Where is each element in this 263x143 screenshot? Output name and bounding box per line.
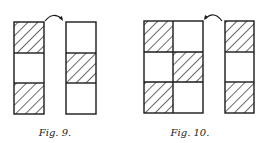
fig10-grid bbox=[144, 21, 203, 113]
fig10-caption: Fig. 10. bbox=[171, 127, 210, 138]
fig9-left-column bbox=[14, 22, 44, 114]
fig9-right-column bbox=[66, 22, 96, 114]
fig10-arrow-icon bbox=[204, 15, 222, 21]
fig9-caption: Fig. 9. bbox=[39, 127, 71, 138]
figures-canvas bbox=[0, 0, 263, 143]
fig9-arrow-icon bbox=[45, 15, 63, 21]
fig10-right-column bbox=[225, 21, 254, 113]
